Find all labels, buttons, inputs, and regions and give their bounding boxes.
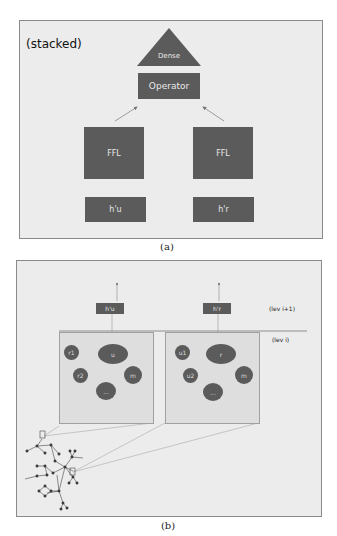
- panel-a-stacked-diagram: (stacked) Dense Operator FFL FFL h'u h'r: [19, 20, 323, 239]
- panel-b-hierarchy-diagram: h'u h'r (lev i+1) (lev i) u r1 r2 m ... …: [16, 260, 322, 517]
- level-lower-label: (lev i): [272, 336, 289, 343]
- node-r: r: [206, 344, 236, 364]
- caption-b: (b): [148, 520, 188, 531]
- hr-box-b: h'r: [203, 303, 231, 314]
- ffl-right-box: FFL: [193, 127, 253, 179]
- node-r1: r1: [64, 345, 79, 360]
- node-u1: u1: [175, 345, 190, 360]
- node-m-right: m: [235, 366, 253, 384]
- hr-box: h'r: [193, 197, 254, 222]
- node-ellipsis-right: ...: [203, 383, 223, 401]
- node-u: u: [98, 344, 128, 364]
- level-upper-label: (lev i+1): [269, 305, 295, 312]
- node-r2: r2: [73, 368, 88, 383]
- panel-a-arrows: [20, 21, 322, 238]
- caption-a: (a): [147, 241, 187, 252]
- ffl-left-box: FFL: [84, 127, 144, 179]
- graph-thumbnail: [25, 431, 83, 510]
- hu-box-b: h'u: [96, 303, 124, 314]
- node-m-left: m: [124, 366, 142, 384]
- node-u2: u2: [183, 368, 198, 383]
- node-ellipsis-left: ...: [96, 382, 116, 400]
- hu-box: h'u: [85, 197, 146, 222]
